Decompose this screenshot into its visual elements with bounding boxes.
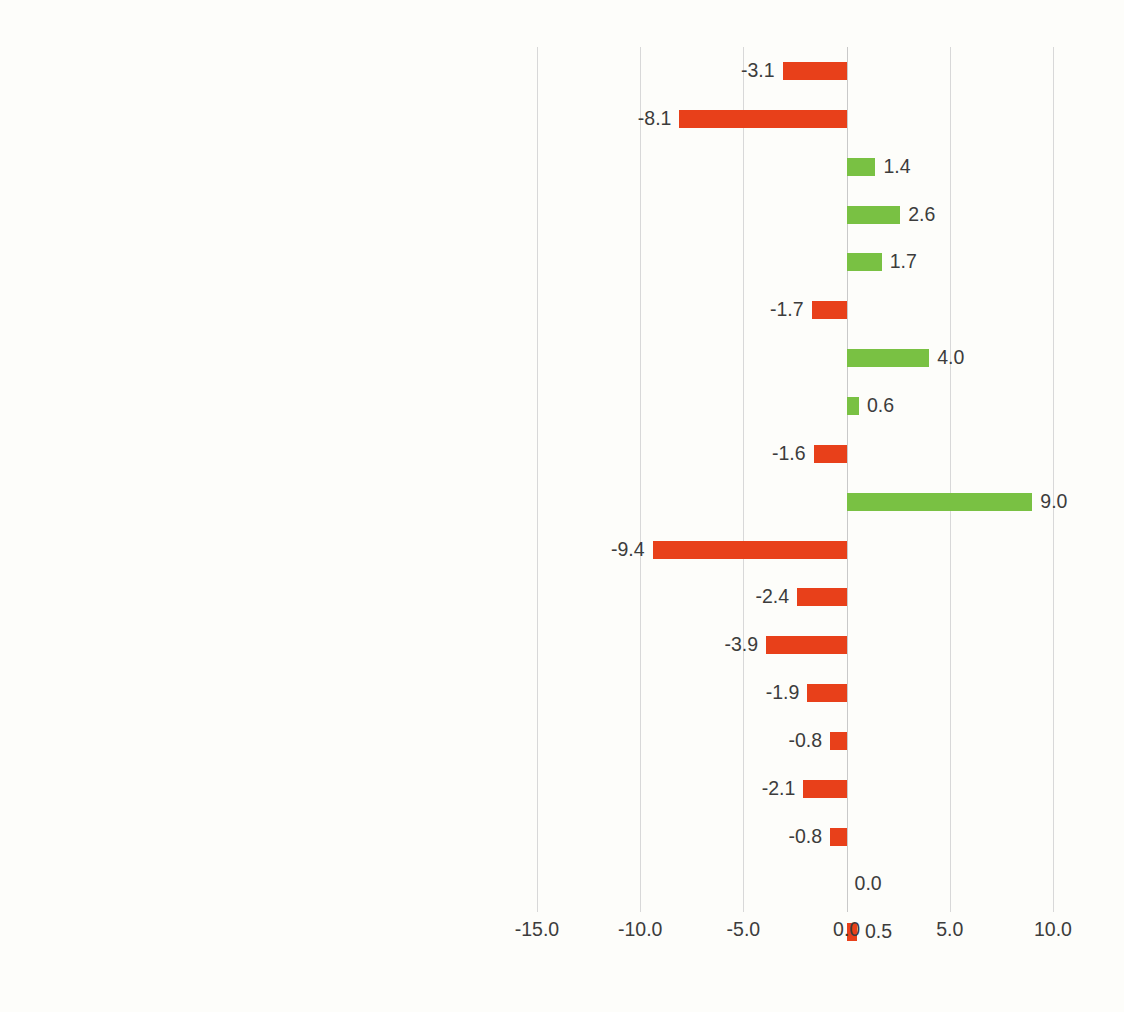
bar-value-label: -8.1	[638, 95, 672, 143]
bar[interactable]	[797, 588, 847, 606]
bar-value-label: 0.6	[867, 382, 894, 430]
x-tick-label: 10.0	[1003, 918, 1103, 941]
chart-row: Education2.6	[537, 191, 1053, 239]
x-tick-label: -15.0	[487, 918, 587, 941]
chart-row: Mining and quarrying0.0	[537, 860, 1053, 908]
chart-row: Other service activities-3.1	[537, 47, 1053, 95]
bar-value-label: 9.0	[1040, 478, 1067, 526]
bar[interactable]	[812, 301, 847, 319]
bar-value-label: -1.6	[772, 430, 806, 478]
chart-row: Professional, scientific and technical a…	[537, 334, 1053, 382]
bar-value-label: -0.8	[788, 717, 822, 765]
bar[interactable]	[803, 780, 846, 798]
bar[interactable]	[783, 62, 847, 80]
bar-value-label: -1.7	[770, 286, 804, 334]
chart-row: Public administration1.7	[537, 238, 1053, 286]
bar-value-label: -0.8	[788, 813, 822, 861]
x-tick-label: -5.0	[693, 918, 793, 941]
chart-row: Financial and insurance-1.6	[537, 430, 1053, 478]
chart-row: Administrative and support service activ…	[537, 286, 1053, 334]
chart-row: Transportation and storage-2.4	[537, 573, 1053, 621]
bar[interactable]	[847, 349, 930, 367]
horizontal-bar-chart: Other service activities-3.1Arts, entert…	[0, 0, 1124, 1012]
bar[interactable]	[847, 206, 901, 224]
chart-row: Health and social work1.4	[537, 143, 1053, 191]
bar[interactable]	[679, 110, 846, 128]
bar-value-label: 4.0	[937, 334, 964, 382]
bar-value-label: -3.9	[725, 621, 759, 669]
chart-row: Manufacturing-0.8	[537, 813, 1053, 861]
bar[interactable]	[830, 828, 847, 846]
bar[interactable]	[814, 445, 847, 463]
bar[interactable]	[807, 684, 846, 702]
x-tick-label: 0.0	[797, 918, 897, 941]
chart-row: Arts, entertainment and recreation-8.1	[537, 95, 1053, 143]
x-axis-tick-labels: -15.0-10.0-5.00.05.010.0	[537, 918, 1053, 952]
plot-area: Other service activities-3.1Arts, entert…	[537, 47, 1053, 912]
chart-row: Accommodation and food-9.4	[537, 526, 1053, 574]
bar-value-label: 2.6	[908, 191, 935, 239]
bar[interactable]	[847, 158, 876, 176]
bar[interactable]	[847, 397, 859, 415]
chart-row: Information and communication9.0	[537, 478, 1053, 526]
bar-value-label: -2.1	[762, 765, 796, 813]
bar-value-label: 1.7	[890, 238, 917, 286]
bar-value-label: -3.1	[741, 47, 775, 95]
chart-row: Water supply, seweragea and waste-0.8	[537, 717, 1053, 765]
bar[interactable]	[766, 636, 846, 654]
bar-value-label: -2.4	[755, 573, 789, 621]
bar-value-label: 0.0	[855, 860, 882, 908]
chart-row: Real estate activities0.6	[537, 382, 1053, 430]
bar-value-label: 1.4	[883, 143, 910, 191]
bar[interactable]	[847, 253, 882, 271]
bar[interactable]	[653, 541, 847, 559]
bar-value-label: -1.9	[766, 669, 800, 717]
chart-row: Construction-1.9	[537, 669, 1053, 717]
chart-row: Wholesale and retail-3.9	[537, 621, 1053, 669]
bar-value-label: -9.4	[611, 526, 645, 574]
bar[interactable]	[830, 732, 847, 750]
x-tick-label: -10.0	[590, 918, 690, 941]
chart-row: Electricity, gas, steam and air conditio…	[537, 765, 1053, 813]
x-tick-label: 5.0	[900, 918, 1000, 941]
bar[interactable]	[847, 493, 1033, 511]
